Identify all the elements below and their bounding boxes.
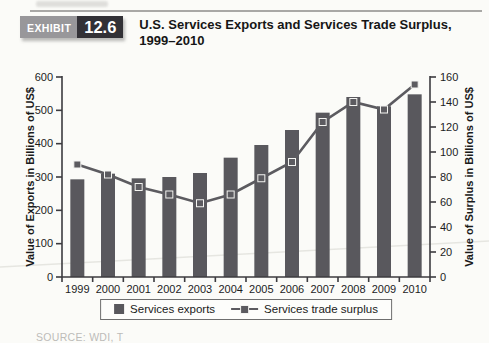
right-tick-label: 40	[440, 221, 452, 233]
left-tick-label: 600	[35, 71, 53, 83]
chart-legend: Services exports Services trade surplus	[100, 299, 392, 320]
surplus-line	[77, 85, 414, 204]
left-tick-label: 500	[35, 104, 53, 116]
surplus-marker-2002	[166, 191, 173, 198]
surplus-marker-2008	[350, 99, 357, 106]
left-tick-label: 400	[35, 137, 53, 149]
trade-surplus-swatch-marker	[241, 306, 248, 313]
right-tick-label: 0	[440, 271, 446, 283]
bar-1999	[70, 179, 84, 277]
x-category-label: 2002	[157, 283, 181, 295]
right-tick-label: 120	[440, 121, 458, 133]
surplus-marker-1999	[74, 161, 81, 168]
x-category-label: 2004	[218, 283, 242, 295]
x-category-label: 1999	[65, 283, 89, 295]
bar-2009	[377, 106, 391, 277]
surplus-marker-2004	[227, 191, 234, 198]
bar-2004	[224, 158, 238, 277]
surplus-marker-2007	[319, 119, 326, 126]
surplus-marker-2003	[197, 200, 204, 207]
x-category-label: 2006	[280, 283, 304, 295]
trade-surplus-swatch-icon	[231, 305, 258, 314]
right-tick-label: 140	[440, 96, 458, 108]
right-tick-label: 80	[440, 171, 452, 183]
x-category-label: 2000	[96, 283, 120, 295]
x-category-label: 2010	[402, 283, 426, 295]
source-text: SOURCE: WDI, T	[36, 331, 123, 343]
bar-2005	[254, 145, 268, 277]
bar-2010	[408, 94, 422, 277]
left-tick-label: 300	[35, 171, 53, 183]
right-axis-title: Value of Surplus in Billions of US$	[463, 87, 475, 267]
x-category-label: 2009	[372, 283, 396, 295]
x-category-label: 2008	[341, 283, 365, 295]
services-exports-swatch-icon	[114, 304, 124, 314]
left-tick-label: 200	[35, 204, 53, 216]
surplus-marker-2010	[411, 81, 418, 88]
bar-2006	[285, 130, 299, 277]
right-tick-label: 60	[440, 196, 452, 208]
bar-2003	[193, 173, 207, 277]
bar-2007	[316, 113, 330, 277]
left-axis-title: Value of Exports in Billions of US$	[24, 87, 36, 267]
x-category-label: 2003	[188, 283, 212, 295]
x-category-label: 2007	[310, 283, 334, 295]
surplus-marker-2001	[135, 184, 142, 191]
legend-label-trade-surplus: Services trade surplus	[264, 303, 378, 315]
legend-label-services-exports: Services exports	[130, 303, 215, 315]
bar-2008	[346, 97, 360, 277]
x-category-label: 2005	[249, 283, 273, 295]
right-tick-label: 160	[440, 71, 458, 83]
legend-item-trade-surplus: Services trade surplus	[231, 303, 378, 315]
left-tick-label: 0	[47, 271, 53, 283]
legend-item-services-exports: Services exports	[114, 303, 215, 315]
surplus-marker-2005	[258, 175, 265, 182]
surplus-marker-2006	[289, 159, 296, 166]
surplus-marker-2009	[381, 106, 388, 113]
surplus-marker-2000	[105, 171, 112, 178]
right-tick-label: 20	[440, 246, 452, 258]
right-tick-label: 100	[440, 146, 458, 158]
x-category-label: 2001	[126, 283, 150, 295]
bar-2000	[101, 174, 115, 277]
left-tick-label: 100	[35, 237, 53, 249]
bar-2001	[132, 178, 146, 277]
